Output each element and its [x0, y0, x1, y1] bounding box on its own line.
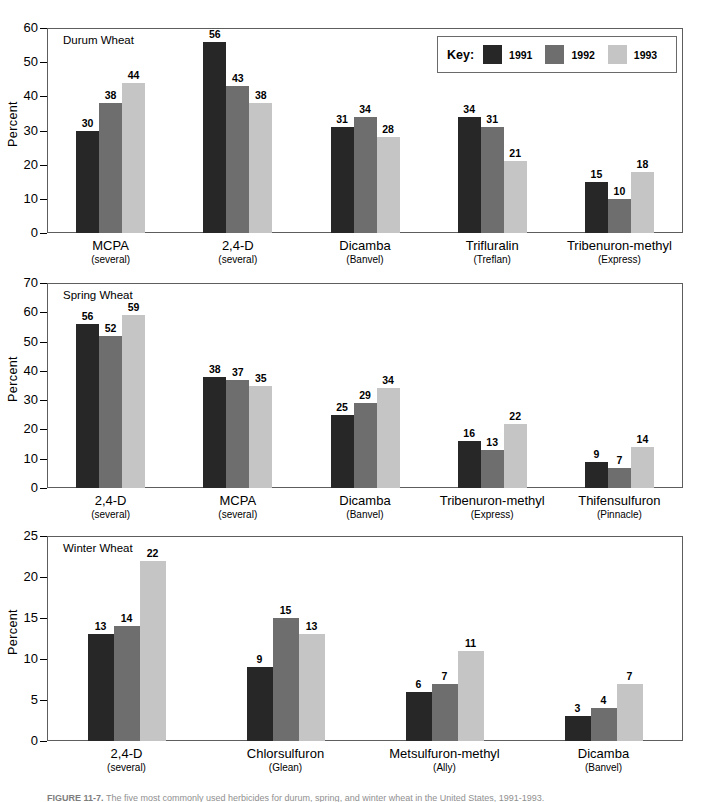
- bar: [99, 336, 122, 488]
- x-axis-category-group: MCPA(several): [47, 239, 174, 266]
- bar: [631, 447, 654, 488]
- x-axis-category-label: 2,4-D: [95, 493, 127, 508]
- y-axis-tick-label: 60: [12, 20, 38, 35]
- legend-item[interactable]: 1993: [608, 45, 657, 64]
- y-axis-tick-mark: [40, 741, 47, 742]
- bar: [608, 468, 631, 489]
- panel-title: Durum Wheat: [63, 34, 134, 46]
- bar-value-label: 34: [373, 374, 404, 386]
- bar-value-label: 13: [295, 620, 329, 632]
- bar: [565, 716, 591, 741]
- bar: [122, 83, 145, 233]
- bar-value-label: 59: [118, 301, 149, 313]
- y-axis-tick-label: 0: [12, 733, 38, 748]
- chart-legend: Key:199119921993: [437, 36, 677, 73]
- y-axis-tick-mark: [40, 342, 47, 343]
- y-axis-tick-mark: [40, 131, 47, 132]
- bar-value-label: 22: [136, 547, 170, 559]
- x-axis-category-group: Chlorsulfuron(Glean): [206, 747, 365, 774]
- bar: [377, 388, 400, 488]
- bar-value-label: 56: [199, 28, 230, 40]
- x-axis-category-label: MCPA: [219, 493, 256, 508]
- chart-plot-area-winter-wheat: Percent0510152025Winter Wheat1314222,4-D…: [0, 525, 703, 785]
- bar: [203, 377, 226, 488]
- x-axis-category-label: Chlorsulfuron: [247, 746, 324, 761]
- legend-item-label: 1993: [634, 49, 657, 61]
- y-axis-tick-label: 40: [12, 88, 38, 103]
- bar-value-label: 4: [587, 694, 621, 706]
- x-axis-category-group: MCPA(several): [174, 494, 301, 521]
- legend-item[interactable]: 1991: [483, 45, 532, 64]
- x-axis-category-sublabel: (Express): [429, 509, 556, 521]
- legend-swatch-icon: [483, 45, 502, 64]
- y-axis-tick-label: 0: [12, 225, 38, 240]
- bar: [377, 137, 400, 233]
- bar-value-label: 38: [245, 89, 276, 101]
- legend-swatch-icon: [608, 45, 627, 64]
- x-axis-category-label: MCPA: [92, 238, 129, 253]
- bar-value-label: 56: [72, 310, 103, 322]
- bar: [226, 380, 249, 488]
- bar-value-label: 14: [627, 433, 658, 445]
- x-axis-category-sublabel: (several): [47, 762, 206, 774]
- bar: [458, 651, 484, 741]
- y-axis-tick-mark: [40, 429, 47, 430]
- y-axis-tick-label: 10: [12, 651, 38, 666]
- x-axis-category-group: Tribenuron-methyl(Express): [429, 494, 556, 521]
- bar-value-label: 18: [627, 158, 658, 170]
- caption-text: The five most commonly used herbicides f…: [106, 793, 544, 802]
- x-axis-category-sublabel: (several): [174, 509, 301, 521]
- y-axis-tick-label: 20: [12, 421, 38, 436]
- bar: [617, 684, 643, 741]
- bar-value-label: 44: [118, 69, 149, 81]
- y-axis-tick-label: 10: [12, 451, 38, 466]
- legend-item-label: 1992: [571, 49, 594, 61]
- y-axis-tick-mark: [40, 400, 47, 401]
- panel-title: Winter Wheat: [63, 542, 133, 554]
- bar: [114, 626, 140, 741]
- bar: [504, 161, 527, 233]
- y-axis-tick-mark: [40, 199, 47, 200]
- x-axis-category-group: Tribenuron-methyl(Express): [556, 239, 683, 266]
- bar-value-label: 21: [500, 147, 531, 159]
- x-axis-category-sublabel: (Ally): [365, 762, 524, 774]
- bar-value-label: 7: [428, 670, 462, 682]
- y-axis-tick-label: 0: [12, 480, 38, 495]
- bar: [331, 127, 354, 233]
- y-axis-tick-mark: [40, 28, 47, 29]
- chart-panel-durum-wheat: Percent0102030405060Durum Wheat303844MCP…: [0, 0, 703, 268]
- x-axis-category-label: Thifensulfuron: [578, 493, 660, 508]
- bar-value-label: 15: [581, 168, 612, 180]
- y-axis-tick-label: 30: [12, 123, 38, 138]
- bar-value-label: 22: [500, 410, 531, 422]
- x-axis-category-label: 2,4-D: [222, 238, 254, 253]
- legend-item[interactable]: 1992: [545, 45, 594, 64]
- x-axis-category-sublabel: (Banvel): [524, 762, 683, 774]
- x-axis-category-label: Metsulfuron-methyl: [389, 746, 500, 761]
- y-axis-tick-label: 25: [12, 528, 38, 543]
- y-axis-tick-label: 50: [12, 54, 38, 69]
- chart-panel-spring-wheat: Percent010203040506070Spring Wheat565259…: [0, 268, 703, 525]
- y-axis-tick-mark: [40, 62, 47, 63]
- x-axis-category-group: Dicamba(Banvel): [524, 747, 683, 774]
- y-axis-tick-mark: [40, 618, 47, 619]
- y-axis-tick-label: 20: [12, 569, 38, 584]
- bar: [99, 103, 122, 233]
- x-axis-category-group: Thifensulfuron(Pinnacle): [556, 494, 683, 521]
- bar: [458, 117, 481, 233]
- x-axis-category-group: 2,4-D(several): [47, 494, 174, 521]
- y-axis-tick-mark: [40, 700, 47, 701]
- bar-value-label: 31: [477, 113, 508, 125]
- x-axis-category-group: Metsulfuron-methyl(Ally): [365, 747, 524, 774]
- x-axis-category-group: 2,4-D(several): [47, 747, 206, 774]
- x-axis-category-sublabel: (Banvel): [301, 254, 428, 266]
- y-axis-tick-mark: [40, 165, 47, 166]
- y-axis-tick-mark: [40, 233, 47, 234]
- chart-panel-winter-wheat: Percent0510152025Winter Wheat1314222,4-D…: [0, 525, 703, 785]
- y-axis-tick-mark: [40, 488, 47, 489]
- bar: [406, 692, 432, 741]
- bar: [249, 386, 272, 489]
- x-axis-category-label: 2,4-D: [111, 746, 143, 761]
- x-axis-category-label: Tribenuron-methyl: [440, 493, 545, 508]
- bar-value-label: 14: [110, 612, 144, 624]
